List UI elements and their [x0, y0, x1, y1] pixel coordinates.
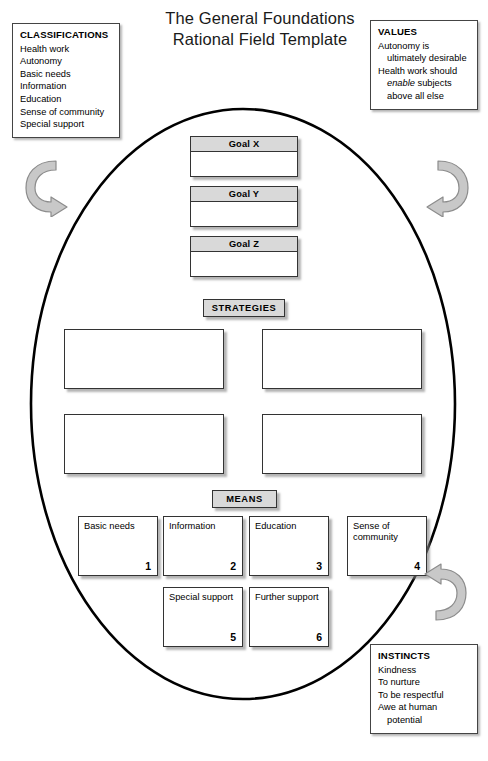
page-title: The General Foundations Rational Field T… [150, 8, 370, 50]
classifications-item-6: Sense of community [20, 106, 113, 119]
goal-z-label: Goal Z [191, 237, 297, 252]
goal-x-body[interactable] [191, 152, 297, 176]
classifications-item-5: Education [20, 93, 113, 106]
goal-z-body[interactable] [191, 252, 297, 276]
instincts-box: INSTINCTS Kindness To nurture To be resp… [370, 644, 478, 734]
curved-arrow-left-icon [22, 155, 76, 217]
means-card-5[interactable]: Special support 5 [163, 587, 243, 647]
classifications-item-1: Health work [20, 43, 113, 56]
goal-y-label: Goal Y [191, 187, 297, 202]
means-card-3-label: Education [255, 521, 323, 532]
values-line-2: ultimately desirable [378, 52, 471, 65]
instincts-item-2: To nurture [378, 676, 471, 689]
classifications-box: CLASSIFICATIONS Health work Autonomy Bas… [12, 23, 120, 138]
means-card-6-label: Further support [255, 592, 323, 603]
means-card-1[interactable]: Basic needs 1 [78, 516, 158, 576]
values-line-3: Health work should [378, 65, 471, 78]
classifications-item-7: Special support [20, 118, 113, 131]
means-card-1-label: Basic needs [84, 521, 152, 532]
strategies-section-label: STRATEGIES [203, 299, 285, 317]
goal-box-z[interactable]: Goal Z [190, 236, 298, 277]
instincts-item-1: Kindness [378, 664, 471, 677]
classifications-item-2: Autonomy [20, 55, 113, 68]
means-card-2[interactable]: Information 2 [163, 516, 243, 576]
means-card-4-label: Sense of community [353, 521, 421, 544]
classifications-item-3: Basic needs [20, 68, 113, 81]
values-line-4-rest: subjects [415, 78, 452, 88]
values-header: VALUES [378, 26, 471, 39]
means-card-3[interactable]: Education 3 [249, 516, 329, 576]
values-emphasis: enable [387, 78, 415, 88]
strategy-box-4[interactable] [262, 414, 422, 474]
instincts-header: INSTINCTS [378, 650, 471, 663]
instincts-item-4: Awe at human [378, 701, 471, 714]
means-card-2-number: 2 [230, 560, 236, 572]
means-card-3-number: 3 [316, 560, 322, 572]
title-line-1: The General Foundations [150, 8, 370, 29]
goal-box-y[interactable]: Goal Y [190, 186, 298, 227]
means-card-5-label: Special support [169, 592, 237, 603]
goal-x-label: Goal X [191, 137, 297, 152]
means-card-6-number: 6 [316, 631, 322, 643]
means-card-5-number: 5 [230, 631, 236, 643]
instincts-item-3: To be respectful [378, 689, 471, 702]
goal-box-x[interactable]: Goal X [190, 136, 298, 177]
means-section-label: MEANS [212, 490, 277, 508]
goal-y-body[interactable] [191, 202, 297, 226]
classifications-item-4: Information [20, 80, 113, 93]
strategy-box-3[interactable] [64, 414, 224, 474]
values-box: VALUES Autonomy is ultimately desirable … [370, 20, 478, 110]
means-card-2-label: Information [169, 521, 237, 532]
values-line-5: above all else [378, 90, 471, 103]
values-line-4: enable subjects [378, 77, 471, 90]
diagram-canvas: The General Foundations Rational Field T… [0, 0, 488, 761]
means-card-6[interactable]: Further support 6 [249, 587, 329, 647]
means-card-4-number: 4 [414, 560, 420, 572]
title-line-2: Rational Field Template [150, 29, 370, 50]
means-card-1-number: 1 [145, 560, 151, 572]
strategy-box-1[interactable] [64, 329, 224, 389]
means-card-4[interactable]: Sense of community 4 [347, 516, 427, 576]
curved-arrow-right-icon [418, 155, 472, 217]
classifications-header: CLASSIFICATIONS [20, 29, 113, 42]
strategy-box-2[interactable] [262, 329, 422, 389]
instincts-item-4-cont: potential [378, 714, 471, 727]
values-line-1: Autonomy is [378, 40, 471, 53]
